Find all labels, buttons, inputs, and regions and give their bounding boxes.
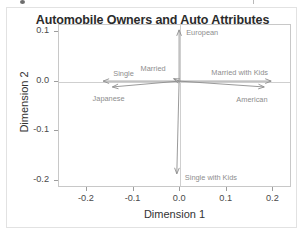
vector-arrow [177, 30, 182, 81]
cropped-toolbar-artifact [0, 0, 303, 7]
figure-container: Automobile Owners and Auto Attributes Di… [6, 7, 297, 228]
toolbar-dot-icon [20, 0, 25, 4]
x-tick-mark [226, 187, 227, 191]
vector-label: Single with Kids [185, 174, 237, 181]
vector-label: American [236, 96, 267, 103]
x-tick-mark [272, 187, 273, 191]
vector-label: Single [113, 70, 134, 77]
x-tick-label: 0.2 [247, 194, 297, 203]
x-axis-title: Dimension 1 [58, 208, 291, 220]
vector-arrow [103, 79, 179, 84]
x-tick-mark [133, 187, 134, 191]
vector-label: Married [141, 65, 166, 72]
vector-arrow [175, 81, 180, 174]
y-tick-label: -0.1 [33, 125, 49, 134]
chart-screenshot: Automobile Owners and Auto Attributes Di… [0, 0, 303, 233]
vector-arrow [112, 81, 179, 89]
vector-arrow [179, 81, 264, 89]
y-tick-label: 0.0 [36, 76, 49, 85]
x-tick-label: -0.2 [61, 194, 111, 203]
x-tick-label: 0.0 [154, 194, 204, 203]
vector-arrow [179, 79, 271, 84]
vector-layer [59, 25, 290, 186]
toolbar-tick-mark [253, 0, 254, 4]
vector-label: Japanese [93, 95, 125, 102]
x-tick-label: -0.1 [108, 194, 158, 203]
y-tick-label: 0.1 [36, 26, 49, 35]
plot-area: EuropeanSingleMarriedMarried with KidsJa… [58, 24, 291, 187]
x-tick-mark [86, 187, 87, 191]
vector-label: Married with Kids [211, 69, 268, 76]
y-tick-label: -0.2 [33, 175, 49, 184]
y-axis-title: Dimension 2 [18, 52, 30, 152]
x-tick-mark [179, 187, 180, 191]
vector-label: European [186, 29, 218, 36]
x-tick-label: 0.1 [201, 194, 251, 203]
